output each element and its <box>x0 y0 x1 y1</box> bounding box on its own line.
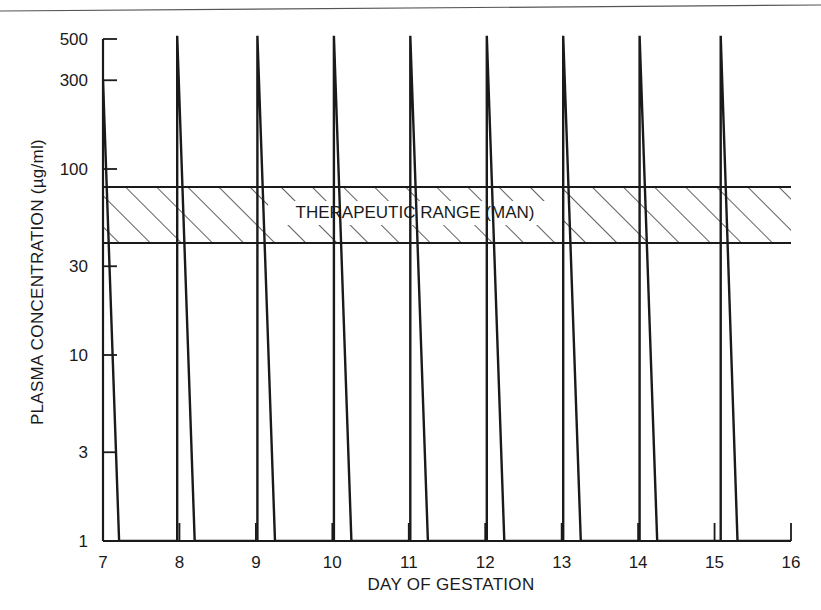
x-tick-label: 10 <box>323 553 342 572</box>
x-tick-label: 15 <box>705 553 724 572</box>
y-tick-label: 500 <box>60 30 88 49</box>
x-tick-label: 16 <box>782 553 801 572</box>
band-label: THERAPEUTIC RANGE (MAN) <box>296 203 535 222</box>
y-tick-label: 30 <box>69 257 88 276</box>
x-tick-label: 12 <box>476 553 495 572</box>
top-border-line <box>0 5 821 11</box>
y-tick-label: 10 <box>69 346 88 365</box>
y-tick-label: 300 <box>60 71 88 90</box>
y-axis-title: PLASMA CONCENTRATION (µg/ml) <box>28 139 47 425</box>
x-tick-label: 7 <box>98 553 107 572</box>
axes <box>103 39 791 541</box>
x-axis-title: DAY OF GESTATION <box>368 575 535 594</box>
x-axis-ticks: 78910111213141516 <box>98 523 800 572</box>
x-tick-label: 13 <box>552 553 571 572</box>
concentration-line <box>103 36 791 541</box>
concentration-series <box>103 36 791 541</box>
concentration-chart: 131030100300500 78910111213141516 THERAP… <box>0 0 821 610</box>
y-tick-label: 100 <box>60 160 88 179</box>
x-tick-label: 11 <box>400 553 418 572</box>
y-tick-label: 1 <box>79 532 88 551</box>
y-axis-ticks: 131030100300500 <box>60 30 117 551</box>
y-tick-label: 3 <box>79 443 88 462</box>
x-tick-label: 8 <box>175 553 184 572</box>
x-tick-label: 14 <box>629 553 648 572</box>
x-tick-label: 9 <box>251 553 260 572</box>
